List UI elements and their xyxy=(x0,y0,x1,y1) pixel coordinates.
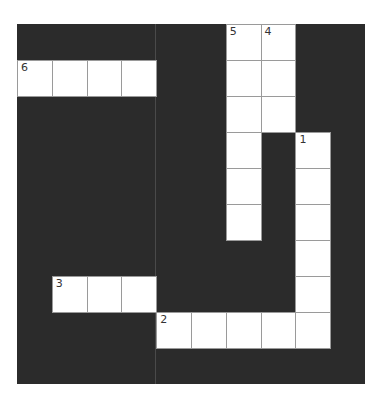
crossword-cell[interactable]: 6 xyxy=(17,60,53,97)
clue-number: 4 xyxy=(265,26,272,37)
clue-number: 5 xyxy=(230,26,237,37)
crossword-cell[interactable] xyxy=(226,312,262,349)
clue-number: 3 xyxy=(56,278,63,289)
crossword-cell[interactable] xyxy=(87,276,123,313)
crossword-cell[interactable]: 2 xyxy=(156,312,192,349)
crossword-cell[interactable]: 5 xyxy=(226,24,262,61)
crossword-cell[interactable] xyxy=(191,312,227,349)
crossword-cell[interactable] xyxy=(295,168,331,205)
crossword-cell[interactable] xyxy=(261,96,297,133)
crossword-cell[interactable] xyxy=(261,312,297,349)
crossword-cell[interactable] xyxy=(261,60,297,97)
crossword-cell[interactable] xyxy=(295,240,331,277)
crossword-cell[interactable] xyxy=(295,312,331,349)
crossword-cell[interactable] xyxy=(295,276,331,313)
crossword-cell[interactable]: 4 xyxy=(261,24,297,61)
crossword-cell[interactable] xyxy=(226,168,262,205)
crossword-cell[interactable] xyxy=(226,60,262,97)
crossword-cell[interactable] xyxy=(226,96,262,133)
crossword-grid: 546132 xyxy=(17,24,365,384)
crossword-cell[interactable] xyxy=(121,276,157,313)
clue-number: 6 xyxy=(21,62,28,73)
crossword-cell[interactable] xyxy=(87,60,123,97)
crossword-cell[interactable] xyxy=(226,132,262,169)
clue-number: 2 xyxy=(160,314,167,325)
crossword-cell[interactable]: 1 xyxy=(295,132,331,169)
clue-number: 1 xyxy=(299,134,306,145)
crossword-cell[interactable] xyxy=(52,60,88,97)
crossword-cell[interactable] xyxy=(295,204,331,241)
crossword-cell[interactable] xyxy=(121,60,157,97)
crossword-cell[interactable]: 3 xyxy=(52,276,88,313)
crossword-cell[interactable] xyxy=(226,204,262,241)
